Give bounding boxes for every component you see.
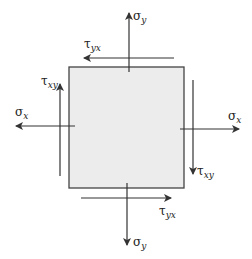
- sigma-x-left-label: σx: [15, 105, 28, 121]
- sigma-x-right-label: σx: [228, 109, 241, 125]
- sigma-y-bottom-label: σy: [133, 235, 147, 251]
- stress-element: [69, 67, 184, 188]
- sigma-y-top-label: σy: [133, 9, 147, 25]
- tau-yx-bottom-label: τyx: [159, 204, 176, 220]
- tau-yx-top-label: τyx: [84, 37, 101, 53]
- stress-element-diagram: σy τyx τxy σx τxy σx τyx σy: [0, 0, 252, 259]
- tau-xy-right-label: τxy: [197, 164, 215, 180]
- tau-xy-left-label: τxy: [41, 74, 59, 90]
